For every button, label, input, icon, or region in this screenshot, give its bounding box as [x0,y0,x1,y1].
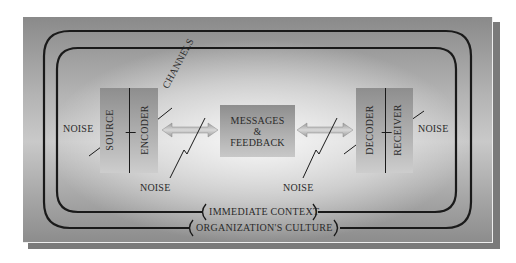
encoder-label: ENCODER [139,97,151,163]
inner-context-bracket-left [203,204,207,220]
receiver-divider [385,88,386,173]
receiver-feedback-squiggle [378,132,392,137]
sender-divider [129,88,130,173]
outer-context-bracket-right [334,220,338,236]
receiver-label: RECEIVER [392,97,404,163]
messages-label: MESSAGES [231,115,285,126]
noise-label-left: NOISE [63,123,93,134]
immediate-context-label: IMMEDIATE CONTEXT [209,206,319,217]
channel-arrow-left [162,123,218,137]
ampersand-label: & [254,126,262,137]
source-label: SOURCE [104,100,116,160]
sender-feedback-squiggle [122,132,136,137]
feedback-label: FEEDBACK [230,137,284,148]
outer-context-bracket-left [190,220,194,236]
organization-culture-label: ORGANIZATION'S CULTURE [196,222,333,233]
noise-label-right: NOISE [418,123,448,134]
channel-arrow-right [297,123,353,137]
noise-label-channel-left: NOISE [140,182,170,193]
noise-label-channel-right: NOISE [283,182,313,193]
messages-feedback-box: MESSAGES & FEEDBACK [220,105,295,157]
decoder-label: DECODER [364,97,376,163]
